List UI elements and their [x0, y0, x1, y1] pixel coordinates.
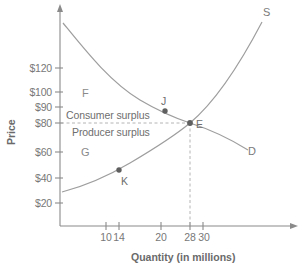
y-axis-title: Price — [6, 119, 17, 145]
point-label-j: J — [161, 96, 166, 107]
supply-curve-label: S — [263, 7, 270, 18]
x-tick-label-20: 20 — [149, 232, 173, 243]
y-tick-label-60: $60 — [10, 147, 52, 158]
chart-canvas — [0, 0, 302, 269]
producer-surplus-label: Producer surplus — [72, 127, 150, 138]
region-label-g: G — [81, 147, 90, 158]
x-axis-arrow-icon — [290, 223, 298, 229]
demand-curve-label: D — [248, 146, 256, 157]
y-axis — [57, 4, 63, 226]
x-tick-label-14: 14 — [107, 232, 131, 243]
supply-demand-chart: $120 $100 $90 $80 $60 $40 $20 10 14 20 2… — [0, 0, 302, 269]
point-marker-e — [187, 120, 193, 126]
y-axis-ticks — [55, 68, 63, 203]
y-tick-label-90: $90 — [10, 102, 52, 113]
x-axis-title: Quantity (in millions) — [131, 252, 235, 263]
supply-curve — [62, 22, 262, 192]
x-tick-label-30: 30 — [192, 232, 216, 243]
y-tick-label-40: $40 — [10, 173, 52, 184]
x-axis — [60, 223, 298, 229]
consumer-surplus-label: Consumer surplus — [66, 110, 150, 121]
y-axis-arrow-icon — [57, 4, 63, 12]
y-tick-label-100: $100 — [10, 87, 52, 98]
region-label-f: F — [82, 88, 89, 99]
point-marker-k — [116, 167, 121, 172]
point-label-e: E — [196, 119, 203, 130]
point-marker-j — [162, 108, 167, 113]
point-label-k: K — [121, 176, 128, 187]
y-tick-label-120: $120 — [10, 63, 52, 74]
y-tick-label-20: $20 — [10, 198, 52, 209]
